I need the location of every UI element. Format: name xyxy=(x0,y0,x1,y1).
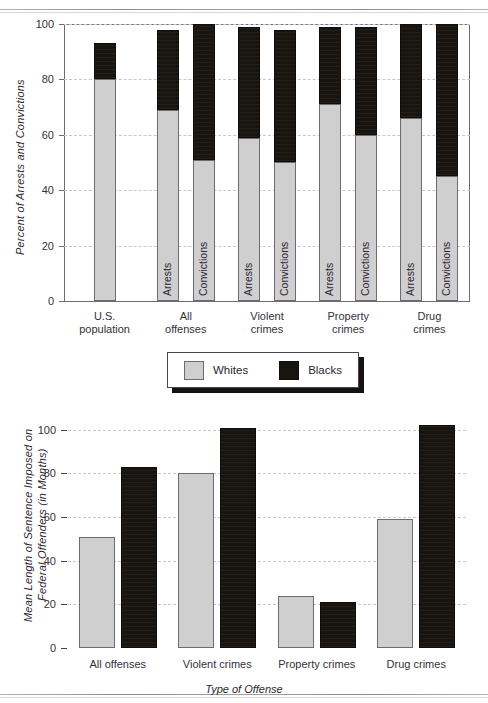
bottom-chart-y-tick-label: 0 xyxy=(0,642,56,654)
bar-segment-whites xyxy=(94,79,116,301)
bar-blacks xyxy=(320,602,356,648)
x-axis-category-label-line2: crimes xyxy=(226,323,307,336)
bottom-chart-y-tick-mark xyxy=(61,604,67,605)
bottom-chart-y-tick-mark xyxy=(61,648,67,649)
x-axis-category-label: Drug crimes xyxy=(367,658,467,671)
x-axis-category-label: Violent crimes xyxy=(168,658,268,671)
bar-blacks xyxy=(121,467,157,648)
top-chart-y-tick-label: 40 xyxy=(0,184,54,196)
bottom-chart-y-tick-label: 80 xyxy=(0,467,56,479)
top-chart-y-tick-mark xyxy=(59,190,64,191)
top-chart-plot-border-right xyxy=(469,24,470,302)
bottom-chart-y-tick-mark xyxy=(61,473,67,474)
bar-whites xyxy=(278,596,314,648)
bar-segment-blacks xyxy=(400,24,422,118)
x-axis-category-label-line2: population xyxy=(64,323,145,336)
top-chart-y-tick-label: 100 xyxy=(0,18,54,30)
x-axis-category-label-line2: crimes xyxy=(308,323,389,336)
top-chart-y-tick-label: 0 xyxy=(0,295,54,307)
x-axis-category-label: U.S.population xyxy=(64,310,145,336)
top-chart-y-tick-mark xyxy=(59,79,64,80)
bar-segment-blacks xyxy=(355,27,377,135)
bar-segment-blacks xyxy=(157,30,179,110)
bar-segment-blacks xyxy=(436,24,458,176)
bar-blacks xyxy=(220,428,256,648)
bar-measure-label: Convictions xyxy=(359,206,371,296)
bottom-chart-y-tick-mark xyxy=(61,517,67,518)
bar-segment-blacks xyxy=(193,24,215,160)
bar-segment-blacks xyxy=(238,27,260,138)
legend-label-whites: Whites xyxy=(213,364,248,376)
legend-item-blacks: Blacks xyxy=(279,361,342,380)
black-swatch-icon xyxy=(279,361,299,380)
top-chart-y-tick-mark xyxy=(59,301,64,302)
bottom-chart-y-tick-label: 20 xyxy=(0,598,56,610)
bar-whites xyxy=(79,537,115,648)
stacked-bar-chart-arrests-convictions: Percent of Arrests and Convictions 02040… xyxy=(0,18,488,340)
bottom-chart-y-tick-mark xyxy=(61,561,67,562)
page-top-rule xyxy=(0,9,488,10)
bar-segment-blacks xyxy=(319,27,341,105)
top-chart-y-tick-mark xyxy=(59,135,64,136)
legend-label-blacks: Blacks xyxy=(308,364,342,376)
bottom-chart-y-tick-label: 60 xyxy=(0,511,56,523)
bar-blacks xyxy=(419,425,455,648)
chart-legend: Whites Blacks xyxy=(167,352,359,388)
bar-whites xyxy=(178,473,214,648)
bar-measure-label: Arrests xyxy=(323,206,335,296)
top-chart-y-tick-label: 80 xyxy=(0,73,54,85)
bottom-chart-x-axis-label: Type of Offense xyxy=(0,683,488,695)
top-chart-y-tick-mark xyxy=(59,24,64,25)
top-chart-y-axis xyxy=(64,24,65,302)
bottom-chart-y-tick-mark xyxy=(61,430,67,431)
bottom-chart-y-tick-label: 100 xyxy=(0,424,56,436)
bottom-chart-y-tick-label: 40 xyxy=(0,555,56,567)
bottom-chart-gridline xyxy=(68,430,466,431)
top-chart-y-tick-label: 60 xyxy=(0,129,54,141)
figure-page: Percent of Arrests and Convictions 02040… xyxy=(0,0,488,703)
bar-measure-label: Arrests xyxy=(242,206,254,296)
top-chart-x-axis xyxy=(64,301,470,302)
bar-measure-label: Convictions xyxy=(197,206,209,296)
x-axis-category-label: Alloffenses xyxy=(145,310,226,336)
white-swatch-icon xyxy=(184,361,204,380)
grouped-bar-chart-sentence-length: Mean Length of Sentence Imposed on Feder… xyxy=(0,400,488,700)
x-axis-category-label: Property crimes xyxy=(267,658,367,671)
x-axis-category-label: Violentcrimes xyxy=(226,310,307,336)
bar-segment-blacks xyxy=(94,43,116,79)
bar-whites xyxy=(377,519,413,648)
x-axis-category-label: Propertycrimes xyxy=(308,310,389,336)
legend-item-whites: Whites xyxy=(184,361,248,380)
top-chart-y-tick-mark xyxy=(59,246,64,247)
x-axis-category-label-line2: offenses xyxy=(145,323,226,336)
x-axis-category-label: All offenses xyxy=(68,658,168,671)
x-axis-category-label-line2: crimes xyxy=(389,323,470,336)
bar-segment-blacks xyxy=(274,30,296,163)
bar-measure-label: Convictions xyxy=(278,206,290,296)
top-chart-y-tick-label: 20 xyxy=(0,240,54,252)
bar-measure-label: Convictions xyxy=(440,206,452,296)
x-axis-category-label: Drugcrimes xyxy=(389,310,470,336)
table-row xyxy=(94,43,116,301)
page-top-rule-shadow xyxy=(0,12,488,13)
bar-measure-label: Arrests xyxy=(404,206,416,296)
bar-measure-label: Arrests xyxy=(161,206,173,296)
